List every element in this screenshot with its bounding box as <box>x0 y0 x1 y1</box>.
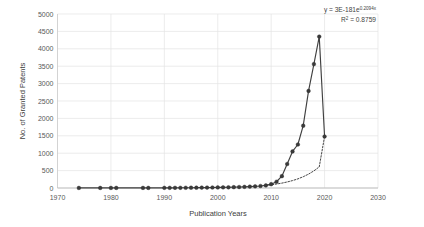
data-point <box>189 186 193 190</box>
data-point <box>291 150 295 154</box>
r-squared-value: = 0.8759 <box>348 16 376 23</box>
data-point <box>259 184 263 188</box>
data-point <box>269 182 273 186</box>
x-tick-2020: 2020 <box>317 194 333 201</box>
y-tick-1000: 1000 <box>38 150 54 157</box>
y-tick-1500: 1500 <box>38 132 54 139</box>
chart-background <box>0 0 424 227</box>
y-tick-3000: 3000 <box>38 80 54 87</box>
data-point <box>211 186 215 190</box>
y-axis-title: No. of Granted Patents <box>18 62 27 139</box>
data-point <box>216 186 220 190</box>
data-point <box>280 174 284 178</box>
data-point <box>205 186 209 190</box>
data-point <box>141 186 145 190</box>
data-point <box>312 62 316 66</box>
data-point <box>114 186 118 190</box>
data-point <box>184 186 188 190</box>
x-axis-title: Publication Years <box>189 209 247 218</box>
data-point <box>200 186 204 190</box>
equation-exponent: 0.2094x <box>360 6 377 11</box>
data-point <box>323 135 327 139</box>
data-point <box>253 184 257 188</box>
y-tick-2500: 2500 <box>38 98 54 105</box>
y-tick-5000: 5000 <box>38 11 54 18</box>
y-tick-3500: 3500 <box>38 63 54 70</box>
equation-base: y = 3E-181e <box>324 6 360 14</box>
x-tick-2010: 2010 <box>263 194 279 201</box>
data-point <box>227 185 231 189</box>
data-point <box>146 186 150 190</box>
data-point <box>243 185 247 189</box>
data-point <box>162 186 166 190</box>
data-point <box>307 89 311 93</box>
y-tick-4000: 4000 <box>38 45 54 52</box>
y-tick-4500: 4500 <box>38 28 54 35</box>
data-point <box>248 185 252 189</box>
y-tick-500: 500 <box>42 167 54 174</box>
y-tick-2000: 2000 <box>38 115 54 122</box>
x-tick-1970: 1970 <box>50 194 66 201</box>
data-point <box>168 186 172 190</box>
x-tick-2030: 2030 <box>370 194 386 201</box>
data-point <box>77 186 81 190</box>
y-tick-0: 0 <box>50 185 54 192</box>
x-tick-1980: 1980 <box>103 194 119 201</box>
data-point <box>264 184 268 188</box>
data-point <box>301 124 305 128</box>
data-point <box>285 162 289 166</box>
data-point <box>275 180 279 184</box>
x-tick-2000: 2000 <box>210 194 226 201</box>
chart-container: 0500100015002000250030003500400045005000… <box>0 0 424 227</box>
data-point <box>237 185 241 189</box>
patents-line-chart: 0500100015002000250030003500400045005000… <box>0 0 424 227</box>
data-point <box>195 186 199 190</box>
data-point <box>296 143 300 147</box>
data-point <box>221 186 225 190</box>
data-point <box>179 186 183 190</box>
x-tick-1990: 1990 <box>157 194 173 201</box>
data-point <box>98 186 102 190</box>
data-point <box>173 186 177 190</box>
data-point <box>109 186 113 190</box>
data-point <box>317 35 321 39</box>
data-point <box>232 185 236 189</box>
